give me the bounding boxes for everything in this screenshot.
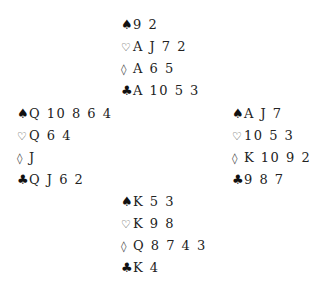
- west-diamonds: ◊J: [17, 147, 113, 169]
- heart-icon: ♡: [17, 126, 29, 148]
- west-spades-cards: Q 10 8 6 4: [29, 106, 113, 121]
- north-hand: ♠9 2 ♡A J 7 2 ◊A 6 5 ♣A 10 5 3: [121, 14, 200, 102]
- heart-icon: ♡: [121, 214, 133, 236]
- diamond-icon: ◊: [17, 148, 29, 170]
- east-diamonds-cards: K 10 9 2: [244, 150, 311, 165]
- spade-icon: ♠: [121, 14, 133, 36]
- diamond-icon: ◊: [232, 148, 244, 170]
- diamond-icon: ◊: [121, 59, 133, 81]
- south-clubs-cards: K 4: [133, 260, 160, 275]
- diamond-icon: ◊: [121, 236, 133, 258]
- west-clubs-cards: Q J 6 2: [29, 172, 84, 187]
- east-hearts: ♡10 5 3: [232, 125, 311, 147]
- north-diamonds: ◊A 6 5: [121, 58, 200, 80]
- club-icon: ♣: [121, 257, 133, 279]
- east-diamonds: ◊K 10 9 2: [232, 147, 311, 169]
- west-hand: ♠Q 10 8 6 4 ♡Q 6 4 ◊J ♣Q J 6 2: [17, 103, 113, 191]
- south-hand: ♠K 5 3 ♡K 9 8 ◊Q 8 7 4 3 ♣K 4: [121, 191, 207, 279]
- south-diamonds-cards: Q 8 7 4 3: [133, 238, 207, 253]
- east-hand: ♠A J 7 ♡10 5 3 ◊K 10 9 2 ♣9 8 7: [232, 103, 311, 191]
- heart-icon: ♡: [232, 126, 244, 148]
- south-diamonds: ◊Q 8 7 4 3: [121, 235, 207, 257]
- west-spades: ♠Q 10 8 6 4: [17, 103, 113, 125]
- north-hearts: ♡A J 7 2: [121, 36, 200, 58]
- east-clubs: ♣9 8 7: [232, 169, 311, 191]
- south-spades-cards: K 5 3: [133, 194, 175, 209]
- east-hearts-cards: 10 5 3: [244, 128, 294, 143]
- east-spades-cards: A J 7: [244, 106, 283, 121]
- spade-icon: ♠: [121, 191, 133, 213]
- north-spades: ♠9 2: [121, 14, 200, 36]
- club-icon: ♣: [17, 169, 29, 191]
- south-hearts: ♡K 9 8: [121, 213, 207, 235]
- heart-icon: ♡: [121, 37, 133, 59]
- west-hearts: ♡Q 6 4: [17, 125, 113, 147]
- north-clubs-cards: A 10 5 3: [133, 83, 200, 98]
- spade-icon: ♠: [232, 103, 244, 125]
- spade-icon: ♠: [17, 103, 29, 125]
- north-hearts-cards: A J 7 2: [133, 39, 187, 54]
- south-spades: ♠K 5 3: [121, 191, 207, 213]
- club-icon: ♣: [121, 80, 133, 102]
- west-hearts-cards: Q 6 4: [29, 128, 72, 143]
- west-clubs: ♣Q J 6 2: [17, 169, 113, 191]
- north-spades-cards: 9 2: [133, 17, 158, 32]
- north-diamonds-cards: A 6 5: [133, 61, 175, 76]
- west-diamonds-cards: J: [29, 150, 36, 165]
- south-hearts-cards: K 9 8: [133, 216, 175, 231]
- north-clubs: ♣A 10 5 3: [121, 80, 200, 102]
- club-icon: ♣: [232, 169, 244, 191]
- south-clubs: ♣K 4: [121, 257, 207, 279]
- east-clubs-cards: 9 8 7: [244, 172, 285, 187]
- east-spades: ♠A J 7: [232, 103, 311, 125]
